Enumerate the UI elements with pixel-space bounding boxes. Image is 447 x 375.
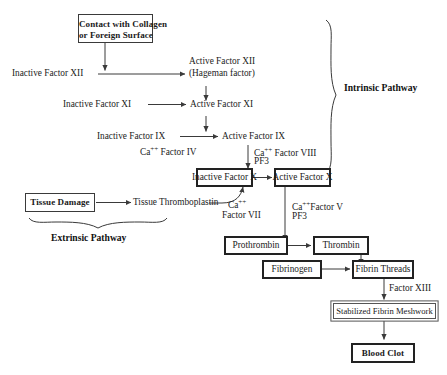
node-active-factor-x: Active Factor X [274, 168, 331, 187]
contact-line-1: Contact with Collagen [79, 19, 152, 30]
label-pf3-upper: PF3 [254, 156, 269, 167]
label-factor-vii: Factor VII [222, 210, 261, 221]
intrinsic-pathway-brace [326, 20, 336, 173]
label-hageman-factor: (Hageman factor) [189, 68, 255, 79]
node-inactive-factor-x: Inactive Factor X [196, 168, 253, 187]
coagulation-cascade-diagram: Contact with Collagen or Foreign Surface… [0, 0, 447, 375]
label-active-factor-xi: Active Factor XI [190, 99, 253, 110]
label-intrinsic-pathway: Intrinsic Pathway [344, 82, 417, 93]
node-fibrin-threads: Fibrin Threads [352, 260, 414, 279]
node-tissue-damage: Tissue Damage [25, 193, 95, 212]
node-contact-with-collagen: Contact with Collagen or Foreign Surface [78, 14, 153, 43]
label-inactive-factor-ix: Inactive Factor IX [97, 131, 165, 142]
node-thrombin: Thrombin [313, 236, 369, 255]
label-ca-factor-iv: Ca++ Factor IV [140, 144, 196, 158]
label-inactive-factor-xii: Inactive Factor XII [12, 68, 83, 79]
node-blood-clot: Blood Clot [351, 343, 415, 363]
node-stabilized-fibrin-meshwork: Stabilized Fibrin Meshwork [333, 303, 436, 319]
label-active-factor-xii: Active Factor XII [189, 56, 255, 67]
label-ca-extrinsic: Ca++ [228, 197, 246, 211]
label-active-factor-ix: Active Factor IX [222, 131, 285, 142]
contact-line-2: or Foreign Surface [79, 30, 152, 41]
label-tissue-thromboplastin: Tissue Thromboplastin [133, 197, 219, 208]
label-factor-xiii: Factor XIII [389, 283, 431, 294]
label-inactive-factor-xi: Inactive Factor XI [63, 99, 131, 110]
extrinsic-pathway-brace [29, 218, 167, 228]
label-extrinsic-pathway: Extrinsic Pathway [51, 232, 126, 243]
node-fibrinogen: Fibrinogen [262, 260, 322, 279]
label-pf3-lower: PF3 [292, 211, 307, 222]
node-prothrombin: Prothrombin [224, 236, 288, 255]
